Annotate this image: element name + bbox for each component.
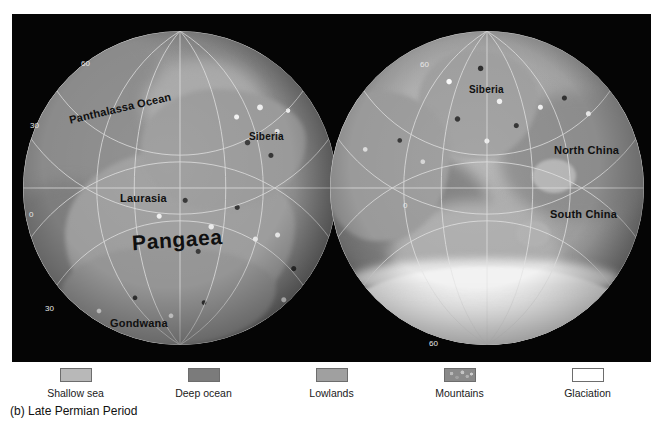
south-china-block [516, 221, 550, 247]
legend-item-mountains: Mountains [414, 368, 506, 399]
mountain-range [526, 87, 606, 133]
legend-swatch-deep-ocean [188, 368, 220, 382]
figure-caption: (b) Late Permian Period [10, 404, 137, 418]
legend-item-deep-ocean: Deep ocean [158, 368, 250, 399]
mountain-range [81, 281, 231, 341]
legend-swatch-mountains [444, 368, 476, 382]
legend-item-shallow-sea: Shallow sea [30, 368, 122, 399]
legend-swatch-glaciation [572, 368, 604, 382]
mountain-range [346, 127, 442, 183]
legend-label-glaciation: Glaciation [564, 387, 611, 399]
mountain-range [141, 181, 271, 269]
legend-item-lowlands: Lowlands [286, 368, 378, 399]
legend-label-shallow-sea: Shallow sea [47, 387, 104, 399]
legend-label-mountains: Mountains [435, 387, 483, 399]
western-hemisphere-globe [23, 31, 337, 345]
map-legend: Shallow sea Deep ocean Lowlands Mountain… [12, 368, 651, 402]
legend-label-deep-ocean: Deep ocean [175, 387, 232, 399]
mountain-range [259, 211, 321, 331]
north-china-block [532, 159, 576, 193]
mountain-range [221, 93, 299, 173]
eastern-hemisphere-globe [330, 31, 644, 345]
legend-label-lowlands: Lowlands [309, 387, 353, 399]
legend-item-glaciation: Glaciation [542, 368, 634, 399]
glaciation-ice-cap-edge [350, 259, 620, 299]
figure-image-panel: Panthalassa Ocean Siberia Laurasia Panga… [12, 14, 651, 362]
legend-swatch-lowlands [316, 368, 348, 382]
legend-swatch-shallow-sea [60, 368, 92, 382]
